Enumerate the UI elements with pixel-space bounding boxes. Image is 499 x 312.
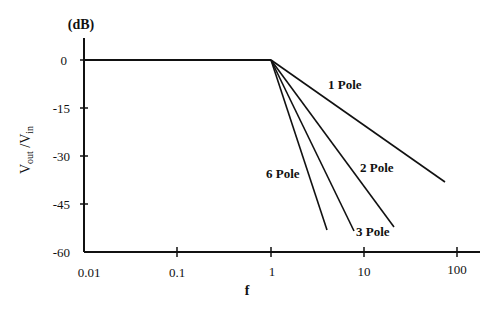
x-tick-label: 10 (358, 264, 371, 279)
y-tick-label: -45 (53, 197, 70, 212)
chart: 0 -15 -30 -45 -60 0.01 0.1 1 10 100 (dB)… (0, 0, 499, 312)
y-unit-label: (dB) (68, 17, 95, 33)
y-tick-label: -30 (53, 149, 70, 164)
y-tick-label: -60 (53, 245, 70, 260)
x-tick-label: 1 (269, 264, 276, 279)
series-6-pole (271, 60, 327, 230)
x-tick-label: 100 (447, 262, 467, 277)
y-tick-label: -15 (53, 101, 70, 116)
label-3-pole: 3 Pole (356, 224, 390, 239)
series-lines (84, 60, 445, 231)
x-tick-label: 0.1 (169, 265, 185, 280)
label-6-pole: 6 Pole (266, 166, 300, 181)
x-axis-title: f (245, 283, 250, 298)
label-2-pole: 2 Pole (360, 160, 394, 175)
label-1-pole: 1 Pole (328, 77, 362, 92)
y-axis-title: Vout /Vin (18, 126, 35, 174)
x-tick-label: 0.01 (78, 265, 101, 280)
y-tick-label: 0 (61, 53, 68, 68)
